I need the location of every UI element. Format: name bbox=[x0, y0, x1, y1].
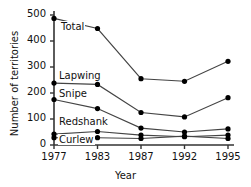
x-tick-label-1995: 1995 bbox=[208, 151, 248, 162]
x-tick-label-1983: 1983 bbox=[78, 151, 118, 162]
x-axis-title: Year bbox=[0, 170, 251, 181]
data-point-snipe-1987 bbox=[138, 126, 143, 131]
data-point-curlew-1983 bbox=[95, 135, 100, 140]
data-point-total-1995 bbox=[225, 59, 230, 64]
data-point-snipe-1977 bbox=[51, 97, 56, 102]
data-point-total-1977 bbox=[51, 16, 56, 21]
data-point-lapwing-1987 bbox=[138, 110, 143, 115]
data-point-lapwing-1992 bbox=[182, 114, 187, 119]
data-point-redshank-1983 bbox=[95, 129, 100, 134]
y-tick-label-200: 200 bbox=[16, 86, 46, 97]
series-label-lapwing: Lapwing bbox=[58, 70, 102, 81]
data-point-curlew-1977 bbox=[51, 135, 56, 140]
data-point-curlew-1995 bbox=[225, 136, 230, 141]
y-tick-label-300: 300 bbox=[16, 60, 46, 71]
y-tick-label-100: 100 bbox=[16, 112, 46, 123]
x-tick-label-1992: 1992 bbox=[165, 151, 205, 162]
data-point-total-1983 bbox=[95, 26, 100, 31]
x-tick-label-1977: 1977 bbox=[34, 151, 74, 162]
data-point-lapwing-1977 bbox=[51, 81, 56, 86]
series-label-snipe: Snipe bbox=[58, 88, 88, 99]
y-tick-label-500: 500 bbox=[16, 8, 46, 19]
y-tick-label-0: 0 bbox=[16, 138, 46, 149]
data-point-lapwing-1983 bbox=[95, 82, 100, 87]
data-point-snipe-1983 bbox=[95, 106, 100, 111]
data-point-curlew-1987 bbox=[138, 136, 143, 141]
data-point-total-1987 bbox=[138, 76, 143, 81]
data-point-lapwing-1995 bbox=[225, 95, 230, 100]
series-label-curlew: Curlew bbox=[58, 134, 95, 145]
data-point-curlew-1992 bbox=[182, 134, 187, 139]
chart-container: Number of territories Year 0100200300400… bbox=[0, 0, 251, 187]
series-label-total: Total bbox=[60, 21, 85, 32]
data-point-snipe-1995 bbox=[225, 126, 230, 131]
series-label-redshank: Redshank bbox=[58, 116, 109, 127]
y-tick-label-400: 400 bbox=[16, 34, 46, 45]
x-tick-label-1987: 1987 bbox=[121, 151, 161, 162]
data-point-total-1992 bbox=[182, 79, 187, 84]
